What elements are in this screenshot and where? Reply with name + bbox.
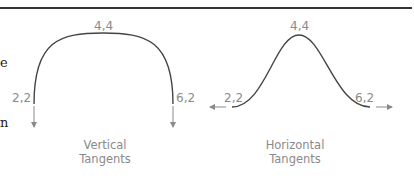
caption-vertical-tangents: Vertical Tangents [55, 138, 155, 166]
point-label-start: 2,2 [224, 92, 243, 104]
caption-line: Tangents [245, 152, 345, 166]
caption-horizontal-tangents: Horizontal Tangents [245, 138, 345, 166]
caption-line: Tangents [55, 152, 155, 166]
point-label-apex: 4,4 [290, 20, 309, 32]
point-label-end: 6,2 [355, 92, 374, 104]
point-label-apex: 4,4 [94, 20, 113, 32]
vertical-tangent-curve [34, 33, 173, 127]
caption-line: Horizontal [245, 138, 345, 152]
caption-line: Vertical [55, 138, 155, 152]
point-label-end: 6,2 [176, 92, 195, 104]
point-label-start: 2,2 [12, 92, 31, 104]
